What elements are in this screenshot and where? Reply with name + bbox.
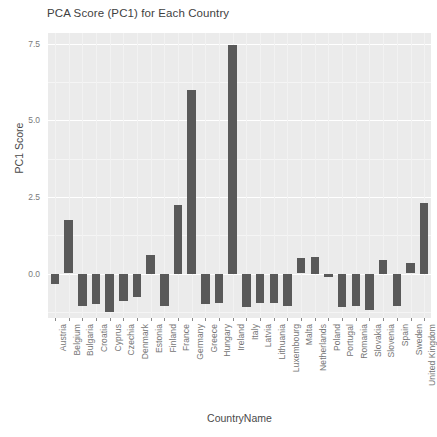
x-tick-mark xyxy=(383,318,384,321)
bar xyxy=(228,45,237,273)
x-tick-mark xyxy=(274,318,275,321)
bar xyxy=(187,90,196,274)
x-tick-label: Greece xyxy=(209,324,219,352)
gridline-vertical xyxy=(69,33,70,318)
x-tick-label: Croatia xyxy=(99,324,109,352)
x-tick-label: Estonia xyxy=(154,324,164,353)
x-tick-label: Bulgaria xyxy=(85,324,95,356)
x-tick-mark xyxy=(69,318,70,321)
x-tick-mark xyxy=(287,318,288,321)
x-tick-label: Sweden xyxy=(414,324,424,355)
x-tick-label: Denmark xyxy=(140,324,150,359)
x-tick-mark xyxy=(301,318,302,321)
bar xyxy=(64,220,73,274)
x-tick-mark xyxy=(369,318,370,321)
bar xyxy=(406,263,415,274)
bar xyxy=(311,257,320,274)
bar xyxy=(119,274,128,302)
gridline-vertical xyxy=(151,33,152,318)
x-axis-title: CountryName xyxy=(48,412,431,424)
x-tick-mark xyxy=(356,318,357,321)
x-tick-mark xyxy=(137,318,138,321)
x-axis-tick-labels: AustriaBelgiumBulgariaCroatiaCyprusCzech… xyxy=(48,324,431,408)
gridline-vertical xyxy=(424,33,425,318)
gridline-major xyxy=(48,197,431,198)
bar xyxy=(160,274,169,306)
gridline-major xyxy=(48,120,431,121)
bar xyxy=(365,274,374,311)
x-tick-mark xyxy=(110,318,111,321)
x-tick-mark xyxy=(397,318,398,321)
bar xyxy=(242,274,251,308)
x-tick-mark xyxy=(328,318,329,321)
x-tick-label: Netherlands xyxy=(318,324,328,371)
x-tick-label: Italy xyxy=(250,324,260,340)
x-tick-label: Cyprus xyxy=(113,324,123,352)
x-tick-label: Spain xyxy=(400,324,410,346)
x-tick-mark xyxy=(246,318,247,321)
y-tick-label: 0.0 xyxy=(28,269,40,279)
x-tick-label: France xyxy=(181,324,191,351)
x-tick-mark xyxy=(123,318,124,321)
x-tick-mark xyxy=(55,318,56,321)
x-tick-mark xyxy=(315,318,316,321)
x-tick-mark xyxy=(96,318,97,321)
gridline-vertical xyxy=(383,33,384,318)
bar xyxy=(146,255,155,273)
x-tick-label: Romania xyxy=(359,324,369,359)
x-tick-mark xyxy=(82,318,83,321)
x-tick-label: Czechia xyxy=(126,324,136,355)
bar xyxy=(270,274,279,303)
gridline-vertical xyxy=(301,33,302,318)
bar xyxy=(105,274,114,312)
bar xyxy=(393,274,402,306)
gridline-minor xyxy=(48,312,431,313)
bar xyxy=(379,260,388,274)
chart-title: PCA Score (PC1) for Each Country xyxy=(47,7,229,19)
x-tick-mark xyxy=(164,318,165,321)
x-tick-mark xyxy=(424,318,425,321)
chart-page: PCA Score (PC1) for Each Country PC1 Sco… xyxy=(0,0,437,437)
bar xyxy=(324,274,333,277)
bar xyxy=(256,274,265,303)
bar xyxy=(297,258,306,273)
y-tick-label: 7.5 xyxy=(28,39,40,49)
bar xyxy=(133,274,142,297)
x-tick-label: Luxembourg xyxy=(291,324,301,372)
x-tick-mark xyxy=(205,318,206,321)
bar xyxy=(215,274,224,303)
x-tick-label: Hungary xyxy=(222,324,232,357)
bar xyxy=(78,274,87,306)
x-tick-mark xyxy=(192,318,193,321)
x-tick-label: Austria xyxy=(58,324,68,351)
x-tick-mark xyxy=(151,318,152,321)
bar xyxy=(92,274,101,305)
x-axis-tick-marks xyxy=(48,318,431,322)
gridline-minor xyxy=(48,235,431,236)
x-tick-label: Poland xyxy=(332,324,342,351)
plot-panel xyxy=(48,33,431,318)
x-tick-label: Latvia xyxy=(263,324,273,347)
x-tick-mark xyxy=(219,318,220,321)
x-tick-label: Germany xyxy=(195,324,205,360)
bar xyxy=(51,274,60,285)
bar xyxy=(338,274,347,308)
gridline-minor xyxy=(48,159,431,160)
x-tick-mark xyxy=(178,318,179,321)
gridline-vertical xyxy=(178,33,179,318)
x-tick-label: United Kingdom xyxy=(427,324,437,386)
gridline-major xyxy=(48,44,431,45)
gridline-vertical xyxy=(315,33,316,318)
x-tick-label: Lithuania xyxy=(277,324,287,359)
x-tick-label: Slovakia xyxy=(373,324,383,357)
y-tick-label: 5.0 xyxy=(28,115,40,125)
y-tick-label: 2.5 xyxy=(28,192,40,202)
bar xyxy=(283,274,292,306)
x-tick-label: Belgium xyxy=(72,324,82,355)
y-axis-tick-labels: 0.02.55.07.5 xyxy=(14,33,40,318)
bar xyxy=(420,203,429,274)
bar xyxy=(352,274,361,306)
gridline-minor xyxy=(48,82,431,83)
x-tick-mark xyxy=(233,318,234,321)
x-tick-label: Ireland xyxy=(236,324,246,351)
